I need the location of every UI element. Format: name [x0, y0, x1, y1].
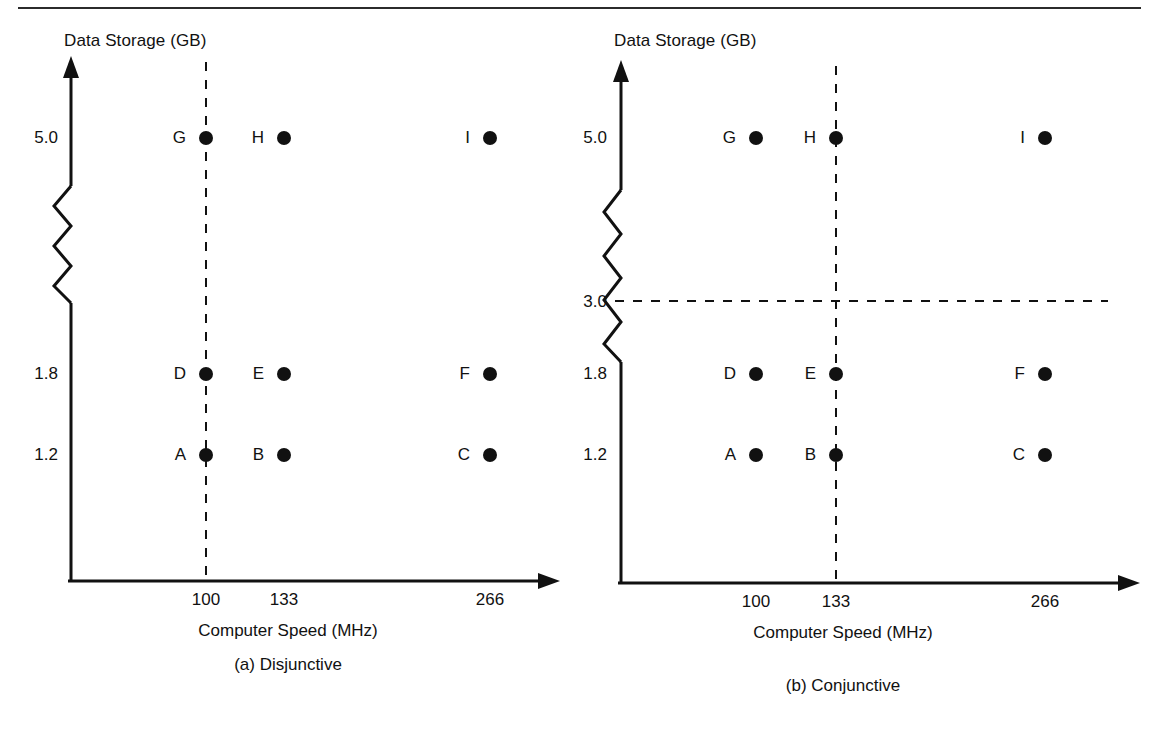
panel-a-point-label-b: B [253, 445, 264, 465]
panel-b-point-dot-g [749, 131, 763, 145]
panel-a-point-dot-h [277, 131, 291, 145]
panel-b-point-dot-h [829, 131, 843, 145]
panel-a-caption: (a) Disjunctive [234, 655, 342, 675]
panel-a-point-dot-g [199, 131, 213, 145]
panel-a-xtick-133: 133 [270, 590, 298, 610]
panel-a-point-dot-d [199, 367, 213, 381]
panel-b-point-label-i: I [1020, 128, 1025, 148]
figure-root: Data Storage (GB) 5.0 1.8 1.2 G H I D E … [0, 0, 1150, 736]
panel-b-point-label-d: D [724, 364, 736, 384]
panel-b-xtick-133: 133 [822, 592, 850, 612]
panel-a-ytick-1.8: 1.8 [14, 364, 58, 384]
panel-a-xtick-266: 266 [476, 590, 504, 610]
panel-a-point-label-c: C [458, 445, 470, 465]
panel-a-point-dot-i [483, 131, 497, 145]
panel-b-point-label-a: A [725, 445, 736, 465]
panel-b-ytick-3.0: 3.0 [563, 292, 607, 312]
panel-a-point-label-e: E [253, 364, 264, 384]
panel-b-point-dot-a [749, 448, 763, 462]
panel-b-point-dot-e [829, 367, 843, 381]
panel-b-caption: (b) Conjunctive [786, 676, 900, 696]
panel-a-ytick-5.0: 5.0 [14, 128, 58, 148]
panel-b-point-label-g: G [723, 128, 736, 148]
panel-b-point-label-f: F [1015, 364, 1025, 384]
panel-a-point-label-g: G [173, 128, 186, 148]
panel-b-point-dot-c [1038, 448, 1052, 462]
panel-b-point-dot-d [749, 367, 763, 381]
panel-b-x-axis-title: Computer Speed (MHz) [753, 623, 933, 643]
panel-a-point-label-i: I [465, 128, 470, 148]
panel-a-y-axis-title: Data Storage (GB) [64, 31, 206, 51]
panel-b-point-dot-b [829, 448, 843, 462]
panel-a-point-label-d: D [174, 364, 186, 384]
panel-a-point-label-f: F [460, 364, 470, 384]
panel-a-point-dot-a [199, 448, 213, 462]
panel-a-xtick-100: 100 [192, 590, 220, 610]
panel-b-point-dot-f [1038, 367, 1052, 381]
panel-b-point-label-e: E [805, 364, 816, 384]
panel-b-point-label-b: B [805, 445, 816, 465]
panel-b-point-label-c: C [1013, 445, 1025, 465]
panel-b-ytick-1.8: 1.8 [563, 364, 607, 384]
panel-b-point-label-h: H [804, 128, 816, 148]
panel-b-point-dot-i [1038, 131, 1052, 145]
panel-b-xtick-266: 266 [1031, 592, 1059, 612]
panel-b-ytick-1.2: 1.2 [563, 445, 607, 465]
panel-b-y-axis-title: Data Storage (GB) [614, 31, 756, 51]
panel-conjunctive: Data Storage (GB) 5.0 3.0 1.8 1.2 G H I … [575, 0, 1150, 736]
panel-a-point-dot-c [483, 448, 497, 462]
panel-a-ytick-1.2: 1.2 [14, 445, 58, 465]
panel-a-point-dot-b [277, 448, 291, 462]
panel-a-point-label-a: A [175, 445, 186, 465]
panel-b-ytick-5.0: 5.0 [563, 128, 607, 148]
panel-a-point-dot-e [277, 367, 291, 381]
panel-disjunctive: Data Storage (GB) 5.0 1.8 1.2 G H I D E … [0, 0, 575, 736]
panel-a-point-label-h: H [252, 128, 264, 148]
panel-a-x-axis-title: Computer Speed (MHz) [198, 621, 378, 641]
panel-a-point-dot-f [483, 367, 497, 381]
panel-b-xtick-100: 100 [742, 592, 770, 612]
